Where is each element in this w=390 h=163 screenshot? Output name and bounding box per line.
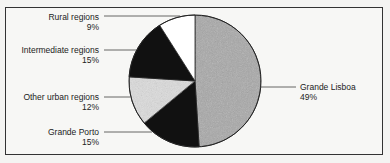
label-lisboa: Grande Lisboa 49% [300, 82, 356, 102]
label-lisboa-pct: 49% [300, 92, 356, 102]
label-intermediate-name: Intermediate regions [0, 45, 99, 55]
label-intermediate-pct: 15% [0, 55, 99, 65]
label-intermediate: Intermediate regions 15% [0, 45, 99, 65]
label-porto: Grande Porto 15% [0, 127, 99, 147]
label-rural-pct: 9% [0, 22, 99, 32]
label-lisboa-name: Grande Lisboa [300, 82, 356, 92]
label-porto-name: Grande Porto [0, 127, 99, 137]
label-other-urban-pct: 12% [0, 102, 99, 112]
label-rural: Rural regions 9% [0, 12, 99, 32]
label-other-urban: Other urban regions 12% [0, 92, 99, 112]
pie-slice-grande-lisboa [195, 15, 261, 147]
pie-slices [129, 15, 261, 147]
label-other-urban-name: Other urban regions [0, 92, 99, 102]
label-porto-pct: 15% [0, 137, 99, 147]
label-rural-name: Rural regions [0, 12, 99, 22]
